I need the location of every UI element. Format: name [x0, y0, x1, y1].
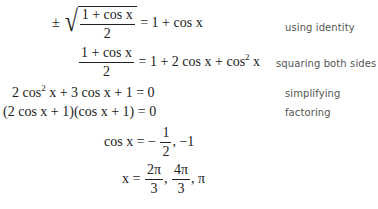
step-label: using identity	[285, 22, 355, 33]
step-label: factoring	[285, 107, 331, 118]
equation-step-5: cos x = − 1 2 , −1	[104, 126, 194, 159]
fraction: 4π 3	[172, 163, 190, 196]
step-label: simplifying	[285, 88, 340, 99]
equation-step-1: ± √ 1 + cos x 2 = 1 + cos x	[52, 6, 203, 41]
fraction: 1 + cos x 2	[79, 46, 134, 79]
fraction: 1 + cos x 2	[80, 8, 135, 41]
fraction: 2π 3	[145, 163, 163, 196]
plus-minus-sign: ±	[52, 15, 60, 30]
equation-step-6: x = 2π 3 , 4π 3 , π	[122, 163, 205, 196]
equation-step-3: 2 cos2 x + 3 cos x + 1 = 0	[12, 86, 155, 100]
step-label: squaring both sides	[276, 58, 376, 69]
rhs: = 1 + cos x	[140, 15, 202, 30]
equation-step-4: (2 cos x + 1)(cos x + 1) = 0	[3, 105, 156, 119]
equation-step-2: 1 + cos x 2 = 1 + 2 cos x + cos2 x	[78, 46, 260, 79]
radical-sign-icon: √	[65, 6, 78, 41]
square-root: √ 1 + cos x 2	[63, 6, 137, 41]
fraction: 1 2	[160, 126, 171, 159]
